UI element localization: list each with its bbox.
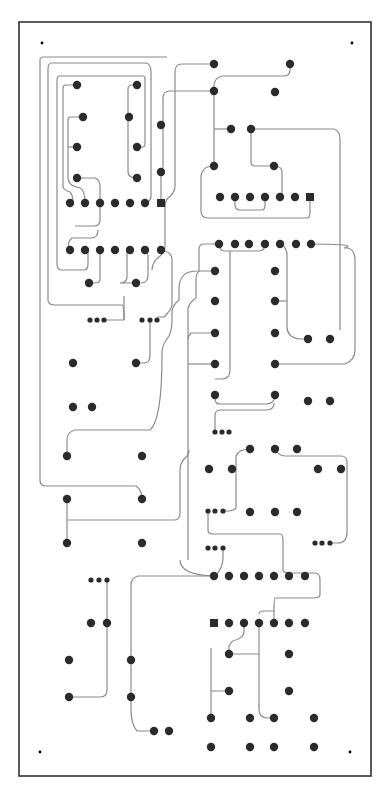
round-pad	[271, 267, 279, 275]
small-pad	[139, 317, 144, 322]
round-pad	[270, 743, 278, 751]
round-pad	[211, 267, 219, 275]
round-pad	[66, 199, 74, 207]
mount-hole	[39, 751, 42, 754]
round-pad	[304, 397, 312, 405]
round-pad	[271, 391, 279, 399]
small-pad	[205, 508, 210, 513]
round-pad	[211, 329, 219, 337]
small-pad	[226, 429, 231, 434]
round-pad	[69, 359, 77, 367]
round-pad	[211, 297, 219, 305]
round-pad	[133, 143, 141, 151]
round-pad	[271, 508, 279, 516]
round-pad	[246, 445, 254, 453]
round-pad	[210, 162, 218, 170]
small-pad	[87, 317, 92, 322]
round-pad	[285, 572, 293, 580]
round-pad	[73, 174, 81, 182]
small-pad	[220, 508, 225, 513]
round-pad	[133, 81, 141, 89]
round-pad	[255, 619, 263, 627]
round-pad	[285, 619, 293, 627]
round-pad	[63, 495, 71, 503]
round-pad	[157, 246, 165, 254]
round-pad	[138, 539, 146, 547]
round-pad	[225, 687, 233, 695]
round-pad	[157, 121, 165, 129]
round-pad	[326, 397, 334, 405]
round-pad	[215, 240, 223, 248]
round-pad	[96, 246, 104, 254]
round-pad	[65, 693, 73, 701]
square-pad	[157, 199, 165, 207]
round-pad	[132, 279, 140, 287]
round-pad	[271, 329, 279, 337]
small-pad	[327, 540, 332, 545]
small-pad	[101, 317, 106, 322]
round-pad	[225, 572, 233, 580]
round-pad	[246, 508, 254, 516]
round-pad	[231, 240, 239, 248]
round-pad	[225, 619, 233, 627]
small-pad	[94, 317, 99, 322]
round-pad	[247, 125, 255, 133]
round-pad	[73, 143, 81, 151]
round-pad	[210, 572, 218, 580]
round-pad	[227, 125, 235, 133]
round-pad	[138, 452, 146, 460]
round-pad	[207, 743, 215, 751]
round-pad	[270, 619, 278, 627]
round-pad	[138, 495, 146, 503]
round-pad	[261, 193, 269, 201]
small-pad	[147, 317, 152, 322]
small-pad	[212, 545, 217, 550]
round-pad	[111, 246, 119, 254]
small-pad	[88, 577, 93, 582]
mount-hole	[41, 42, 44, 45]
round-pad	[79, 113, 87, 121]
round-pad	[270, 572, 278, 580]
round-pad	[240, 572, 248, 580]
mount-hole	[349, 751, 352, 754]
round-pad	[228, 465, 236, 473]
round-pad	[132, 359, 140, 367]
round-pad	[246, 714, 254, 722]
small-pad	[205, 545, 210, 550]
round-pad	[211, 391, 219, 399]
round-pad	[307, 240, 315, 248]
round-pad	[291, 193, 299, 201]
round-pad	[293, 445, 301, 453]
round-pad	[103, 619, 111, 627]
round-pad	[285, 650, 293, 658]
round-pad	[271, 88, 279, 96]
round-pad	[246, 193, 254, 201]
round-pad	[66, 246, 74, 254]
round-pad	[270, 162, 278, 170]
round-pad	[69, 403, 77, 411]
small-pad	[212, 429, 217, 434]
mount-hole	[351, 42, 354, 45]
round-pad	[210, 87, 218, 95]
round-pad	[127, 693, 135, 701]
small-pad	[154, 317, 159, 322]
round-pad	[240, 619, 248, 627]
round-pad	[141, 199, 149, 207]
round-pad	[301, 619, 309, 627]
round-pad	[245, 240, 253, 248]
round-pad	[125, 113, 133, 121]
round-pad	[207, 714, 215, 722]
round-pad	[286, 60, 294, 68]
round-pad	[231, 193, 239, 201]
round-pad	[301, 572, 309, 580]
small-pad	[96, 577, 101, 582]
round-pad	[88, 403, 96, 411]
small-pad	[219, 429, 224, 434]
round-pad	[276, 193, 284, 201]
small-pad	[212, 508, 217, 513]
round-pad	[81, 199, 89, 207]
round-pad	[326, 335, 334, 343]
round-pad	[270, 714, 278, 722]
round-pad	[126, 246, 134, 254]
round-pad	[111, 199, 119, 207]
